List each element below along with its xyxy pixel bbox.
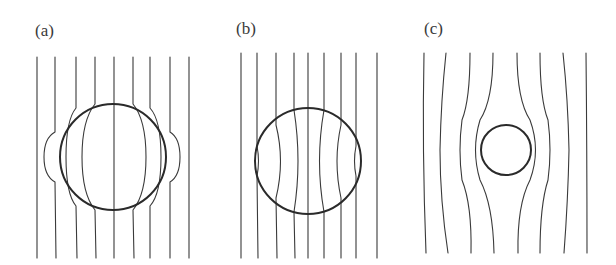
panel-a-sphere xyxy=(60,104,166,210)
panel-c-sphere xyxy=(481,125,531,175)
panel-c-field-lines xyxy=(423,53,587,253)
panel-b-field-lines xyxy=(241,53,377,258)
field-lines-figure xyxy=(0,0,616,265)
